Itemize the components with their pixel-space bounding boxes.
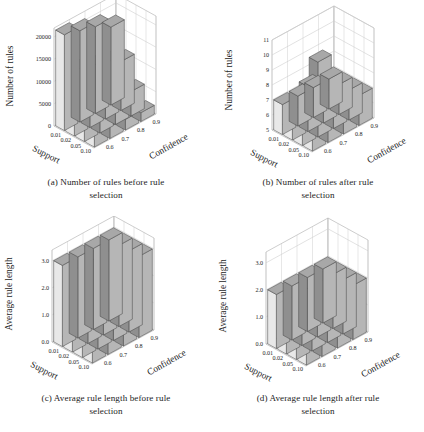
panel-b-plot: 5678910110.010.020.050.100.60.70.80.9Num… [212, 0, 424, 178]
chart-c-yaxis-label: Confidence [145, 348, 187, 378]
panel-b-caption-line1: (b) Number of rules after rule [263, 177, 374, 187]
chart-d-xtick: 0.10 [292, 366, 303, 372]
panel-c-caption: (c) Average rule length before rule sele… [6, 392, 206, 417]
chart-b-xtick: 0.10 [298, 152, 309, 158]
chart-c-ytick: 0.9 [150, 335, 158, 341]
chart-b-ztick: 11 [263, 37, 269, 43]
chart-c-ztick: 3.0 [41, 258, 49, 264]
panel-d-caption: (d) Average rule length after rule selec… [218, 392, 418, 417]
chart-a-ztick: 5000 [39, 101, 51, 107]
chart-a-xaxis-label: Support [31, 143, 62, 165]
chart-a-ztick: 0 [48, 123, 51, 129]
panel-b-caption-line2: selection [218, 189, 418, 202]
chart-b-ztick: 9 [266, 67, 269, 73]
chart-d-ztick: 3.0 [255, 260, 263, 266]
panel-b-caption: (b) Number of rules after rule selection [218, 176, 418, 201]
chart-d-ztick: 1.0 [255, 314, 263, 320]
chart-b-svg: 5678910110.010.020.050.100.60.70.80.9Num… [212, 0, 424, 178]
chart-d-ztick: 0.0 [255, 341, 263, 347]
chart-d-zaxis-label: Average rule length [218, 259, 228, 332]
chart-b-ztick: 10 [263, 52, 269, 58]
chart-c-ztick: 1.0 [41, 312, 49, 318]
figure-3d-bar-charts-grid: 050001000015000200000.010.020.050.100.60… [0, 0, 424, 432]
chart-a-svg: 050001000015000200000.010.020.050.100.60… [0, 0, 212, 178]
chart-d-ytick: 0.8 [349, 345, 357, 351]
chart-b-ztick: 5 [266, 127, 269, 133]
panel-a-caption-line1: (a) Number of rules before rule [48, 177, 165, 187]
chart-c-ytick: 0.8 [135, 343, 143, 349]
chart-d-ytick: 0.7 [334, 354, 342, 360]
chart-b-ytick: 0.6 [324, 148, 332, 154]
panel-d: 0.01.02.03.00.010.020.050.100.60.70.80.9… [212, 216, 424, 432]
chart-a-ytick: 0.8 [137, 127, 145, 133]
chart-b-ytick: 0.7 [340, 140, 348, 146]
chart-a-ytick: 0.9 [152, 119, 160, 125]
chart-b-ytick: 0.9 [370, 123, 378, 129]
chart-a-xtick: 0.10 [80, 148, 91, 154]
chart-b-zaxis-label: Number of rules [224, 49, 234, 110]
chart-d-yaxis-label: Confidence [359, 350, 401, 380]
chart-d-ztick: 2.0 [255, 287, 263, 293]
panel-c-caption-line2: selection [6, 405, 206, 418]
chart-a-ztick: 15000 [36, 56, 51, 62]
panel-c-plot: 0.01.02.03.00.010.020.050.100.60.70.80.9… [0, 216, 212, 394]
panel-c-caption-line1: (c) Average rule length before rule [42, 393, 171, 403]
chart-d-xaxis-label: Support [243, 361, 274, 383]
panel-d-caption-line1: (d) Average rule length after rule [257, 393, 380, 403]
chart-b-xaxis-label: Support [249, 147, 280, 169]
chart-b-ztick: 7 [266, 97, 269, 103]
panel-a: 050001000015000200000.010.020.050.100.60… [0, 0, 212, 216]
chart-a-ztick: 10000 [36, 79, 51, 85]
chart-c-xaxis-label: Support [29, 359, 60, 381]
chart-a-ztick: 20000 [36, 34, 51, 40]
chart-a-ytick: 0.7 [122, 136, 130, 142]
chart-c-ytick: 0.7 [120, 352, 128, 358]
panel-d-plot: 0.01.02.03.00.010.020.050.100.60.70.80.9… [212, 216, 424, 394]
chart-c-ztick: 2.0 [41, 285, 49, 291]
chart-a-ytick: 0.6 [106, 144, 114, 150]
chart-d-ytick: 0.6 [318, 362, 326, 368]
panel-a-caption-line2: selection [6, 189, 206, 202]
chart-c-zaxis-label: Average rule length [4, 257, 14, 330]
chart-c-xtick: 0.10 [78, 364, 89, 370]
panel-a-caption: (a) Number of rules before rule selectio… [6, 176, 206, 201]
chart-b-ytick: 0.8 [355, 131, 363, 137]
chart-d-svg: 0.01.02.03.00.010.020.050.100.60.70.80.9… [212, 216, 424, 394]
chart-c-ytick: 0.6 [104, 360, 112, 366]
chart-c-svg: 0.01.02.03.00.010.020.050.100.60.70.80.9… [0, 216, 212, 394]
chart-b-yaxis-label: Confidence [365, 136, 407, 166]
panel-c: 0.01.02.03.00.010.020.050.100.60.70.80.9… [0, 216, 212, 432]
panel-a-plot: 050001000015000200000.010.020.050.100.60… [0, 0, 212, 178]
chart-b-ztick: 6 [266, 112, 269, 118]
chart-b-ztick: 8 [266, 82, 269, 88]
panel-b: 5678910110.010.020.050.100.60.70.80.9Num… [212, 0, 424, 216]
chart-d-ytick: 0.9 [364, 337, 372, 343]
chart-a-zaxis-label: Number of rules [5, 45, 15, 106]
chart-a-yaxis-label: Confidence [147, 132, 189, 162]
chart-c-ztick: 0.0 [41, 339, 49, 345]
panel-d-caption-line2: selection [218, 405, 418, 418]
